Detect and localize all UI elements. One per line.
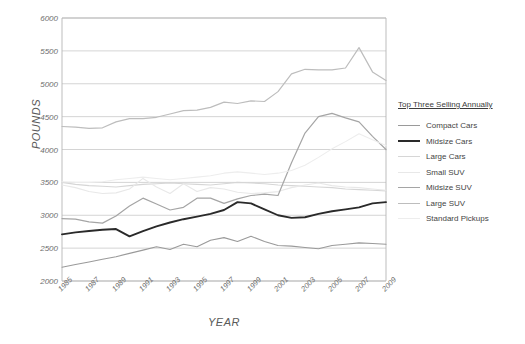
series-line-0 (62, 236, 386, 267)
y-axis-title: POUNDS (30, 84, 42, 164)
legend-label: Large Cars (426, 152, 466, 161)
line-chart: 200025003000350040004500500055006000 POU… (0, 0, 525, 344)
legend-item-3[interactable]: Small SUV (398, 165, 522, 181)
x-axis-title: YEAR (62, 316, 386, 328)
legend-item-4[interactable]: Midsize SUV (398, 180, 522, 196)
series-line-4 (62, 113, 386, 223)
legend-item-6[interactable]: Standard Pickups (398, 211, 522, 227)
legend-swatch-icon (398, 187, 420, 188)
legend-swatch-icon (398, 140, 420, 142)
legend-swatch-icon (398, 203, 420, 204)
legend-item-5[interactable]: Large SUV (398, 196, 522, 212)
series-line-6 (62, 134, 386, 183)
legend-label: Midsize SUV (426, 183, 472, 192)
legend: Top Three Selling Annually Compact CarsM… (398, 100, 522, 227)
legend-items: Compact CarsMidsize CarsLarge CarsSmall … (398, 118, 522, 227)
legend-item-0[interactable]: Compact Cars (398, 118, 522, 134)
legend-item-1[interactable]: Midsize Cars (398, 134, 522, 150)
legend-label: Standard Pickups (426, 214, 489, 223)
legend-item-2[interactable]: Large Cars (398, 149, 522, 165)
legend-label: Midsize Cars (426, 137, 472, 146)
legend-swatch-icon (398, 172, 420, 173)
legend-label: Small SUV (426, 168, 465, 177)
legend-swatch-icon (398, 125, 420, 126)
legend-swatch-icon (398, 156, 420, 157)
legend-title: Top Three Selling Annually (398, 100, 522, 109)
legend-swatch-icon (398, 218, 420, 219)
legend-label: Compact Cars (426, 121, 477, 130)
legend-label: Large SUV (426, 199, 465, 208)
